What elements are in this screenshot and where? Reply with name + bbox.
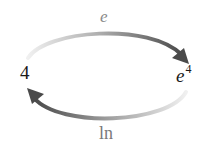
top-arrow: [28, 33, 189, 64]
bottom-arrow: [27, 88, 186, 118]
bottom-function-label: ln: [99, 124, 113, 142]
right-value-base: e: [176, 65, 184, 86]
top-function-label: e: [100, 8, 108, 25]
left-value: 4: [20, 63, 30, 82]
right-value: e4: [176, 66, 191, 85]
right-value-exponent: 4: [185, 62, 191, 76]
